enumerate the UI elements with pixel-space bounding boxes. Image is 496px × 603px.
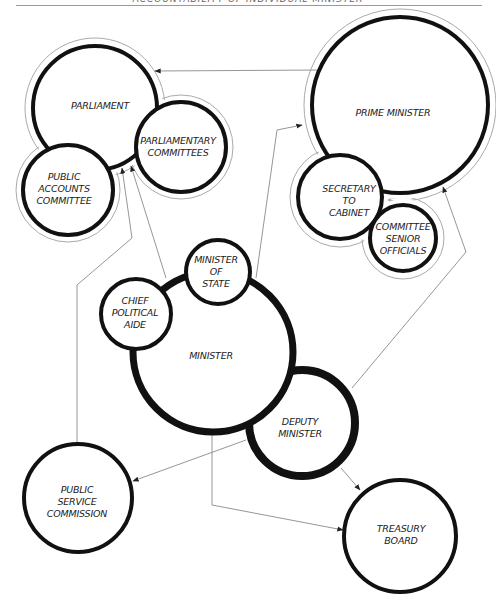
edge-deputy-to-treasury: [341, 468, 360, 490]
label-minister-of-state: MINISTER OF STATE: [194, 254, 238, 290]
label-chief-political-aide: CHIEF POLITICAL AIDE: [112, 295, 159, 331]
label-public-accounts-committee: PUBLIC ACCOUNTS COMMITTEE: [36, 171, 91, 207]
label-deputy-minister: DEPUTY MINISTER: [278, 416, 322, 440]
label-treasury-board: TREASURY BOARD: [377, 523, 426, 547]
label-secretary-to-cabinet: SECRETARY TO CABINET: [322, 183, 375, 219]
label-committee-senior-officials: COMMITTEE SENIOR OFFICIALS: [375, 221, 430, 257]
label-prime-minister: PRIME MINISTER: [356, 107, 431, 119]
label-parliament: PARLIAMENT: [71, 100, 129, 112]
label-minister: MINISTER: [189, 350, 233, 362]
label-parliamentary-committees: PARLIAMENTARY COMMITTEES: [140, 135, 216, 159]
edge-deputy-to-psc: [133, 440, 246, 481]
label-public-service-commission: PUBLIC SERVICE COMMISSION: [47, 484, 107, 520]
edge-pm-to-parliament: [155, 70, 322, 71]
